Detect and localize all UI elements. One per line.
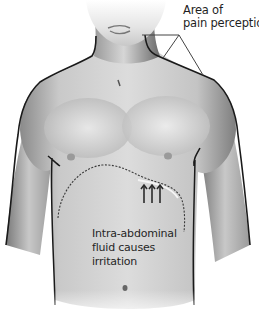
anatomy-diagram: Area of pain perception Intra-abdominal …	[0, 0, 259, 322]
left-nipple	[67, 154, 75, 161]
pain-label-line2: pain perception	[183, 17, 259, 30]
right-pectoral	[122, 96, 210, 156]
torso-illustration	[0, 0, 259, 322]
fluid-label-line1: Intra-abdominal	[92, 227, 177, 241]
torso	[20, 52, 236, 309]
fluid-label-line3: irritation	[92, 255, 177, 269]
left-pectoral	[44, 98, 132, 158]
right-nipple	[164, 153, 172, 160]
arrow-up-icon	[141, 185, 163, 203]
bottom-fade	[0, 290, 259, 322]
fluid-irritation-label: Intra-abdominal fluid causes irritation	[92, 227, 177, 269]
fluid-label-line2: fluid causes	[92, 241, 177, 255]
pain-perception-label: Area of pain perception	[183, 4, 259, 30]
